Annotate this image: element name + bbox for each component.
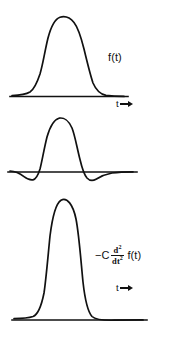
panel-original-plot xyxy=(0,0,190,110)
panel-second-derivative-plot xyxy=(0,108,190,193)
curve-label-original: f(t) xyxy=(108,52,122,63)
panel-sum-plot xyxy=(0,190,190,350)
panel-original: f(t) t xyxy=(0,0,190,110)
curve-sharpened-pulse xyxy=(14,199,143,320)
panel-second-derivative: −C d2 dt2 f(t) t xyxy=(0,108,190,193)
curve-second-derivative xyxy=(10,118,133,180)
figure-root: f(t) t −C d2 dt2 f(t) xyxy=(0,0,190,350)
panel-sum: f(t)−C d2 dt2 f(t) t xyxy=(0,190,190,350)
curve-label-original-text: f(t) xyxy=(108,51,122,63)
right-arrow-icon xyxy=(120,100,133,107)
